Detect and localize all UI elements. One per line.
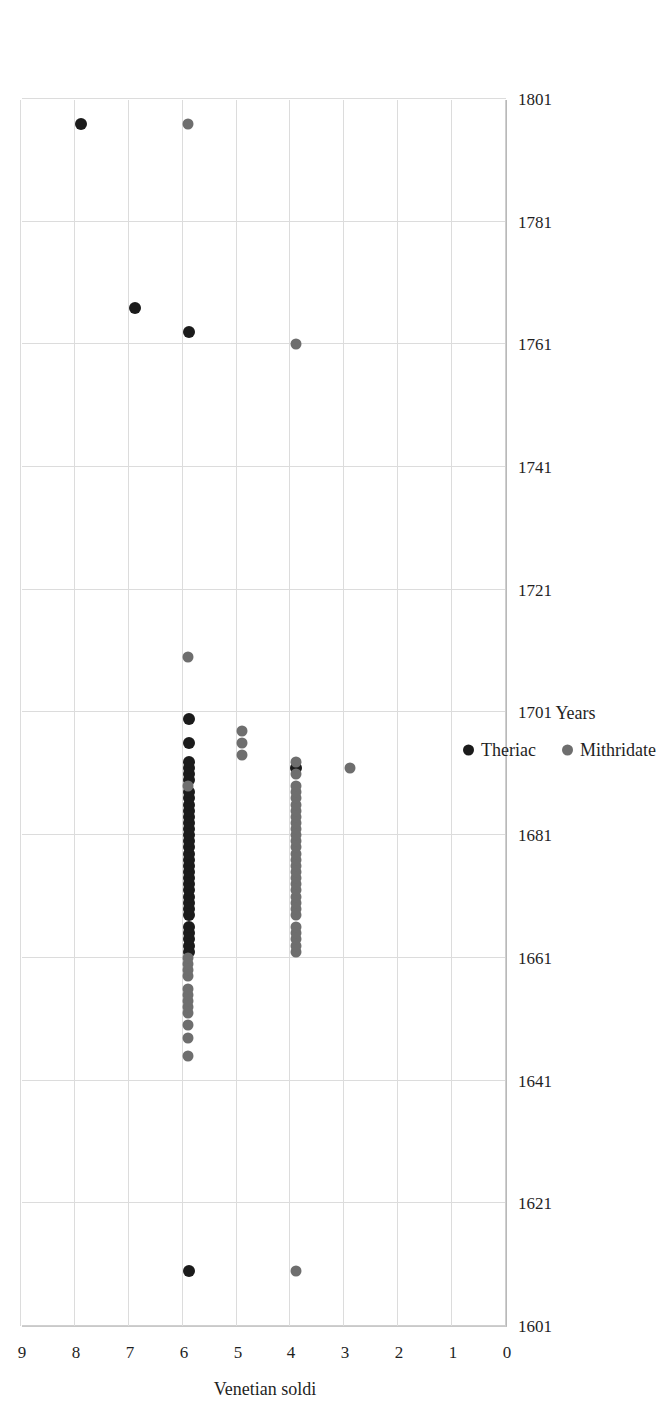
grid-line-soldi-0 [505,100,506,1326]
grid-line-year-1761 [22,343,506,344]
data-point-mithridate [183,1020,194,1031]
x-axis-title: Years [555,703,595,724]
x-tick-label-1701: 1701 [518,704,552,724]
legend-item-theriac: Theriac [463,740,536,761]
y-tick-label-2: 2 [395,1343,404,1363]
y-axis-title: Venetian soldi [213,1379,315,1400]
data-point-theriac [75,118,87,130]
grid-line-year-1721 [22,589,506,590]
y-tick-label-0: 0 [503,1343,512,1363]
data-point-mithridate [290,781,301,792]
grid-line-year-1801 [22,98,506,99]
data-point-mithridate [290,339,301,350]
x-tick-label-1681: 1681 [518,826,552,846]
y-tick-label-5: 5 [233,1343,242,1363]
data-point-theriac [183,921,195,933]
grid-line-year-1741 [22,466,506,467]
grid-line-soldi-7 [128,100,129,1326]
grid-line-year-1641 [22,1080,506,1081]
data-point-theriac [129,302,141,314]
grid-line-soldi-4 [289,100,290,1326]
grid-line-year-1701 [22,712,506,713]
grid-line-soldi-6 [182,100,183,1326]
grid-line-soldi-3 [343,100,344,1326]
data-point-mithridate [290,756,301,767]
y-tick-label-4: 4 [287,1343,296,1363]
x-tick-label-1741: 1741 [518,458,552,478]
legend-label: Theriac [481,740,536,761]
y-tick-label-9: 9 [18,1343,27,1363]
data-point-mithridate [183,781,194,792]
grid-line-year-1621 [22,1202,506,1203]
data-point-theriac [183,737,195,749]
data-point-theriac [183,713,195,725]
data-point-mithridate [183,1051,194,1062]
grid-line-year-1601 [22,1325,506,1326]
legend-item-mithridate: Mithridate [562,740,656,761]
x-tick-label-1801: 1801 [518,90,552,110]
grid-line-year-1681 [22,834,506,835]
y-tick-label-6: 6 [179,1343,188,1363]
data-point-mithridate [237,725,248,736]
y-tick-label-8: 8 [72,1343,81,1363]
grid-line-soldi-1 [451,100,452,1326]
data-point-mithridate [183,983,194,994]
grid-line-soldi-2 [397,100,398,1326]
x-tick-label-1601: 1601 [518,1317,552,1337]
data-point-mithridate [183,1032,194,1043]
data-point-mithridate [183,118,194,129]
data-point-mithridate [183,652,194,663]
x-tick-label-1641: 1641 [518,1072,552,1092]
x-tick-label-1781: 1781 [518,213,552,233]
grid-line-year-1661 [22,957,506,958]
grid-line-soldi-9 [20,100,21,1326]
x-tick-label-1721: 1721 [518,581,552,601]
x-tick-label-1661: 1661 [518,949,552,969]
grid-line-soldi-5 [236,100,237,1326]
filled-circle-icon [463,745,474,756]
chart-legend: TheriacMithridate [463,740,656,761]
data-point-theriac [183,756,195,768]
legend-label: Mithridate [580,740,656,761]
data-point-theriac [183,1265,195,1277]
data-point-theriac [183,326,195,338]
y-tick-label-1: 1 [449,1343,458,1363]
grid-line-year-1781 [22,221,506,222]
data-point-mithridate [344,762,355,773]
x-tick-label-1621: 1621 [518,1194,552,1214]
y-tick-label-7: 7 [126,1343,135,1363]
data-point-mithridate [290,922,301,933]
filled-circle-icon [562,745,573,756]
plot-area [22,100,507,1327]
data-point-mithridate [290,1265,301,1276]
data-point-mithridate [290,768,301,779]
data-point-mithridate [183,952,194,963]
data-point-mithridate [237,738,248,749]
x-tick-label-1761: 1761 [518,335,552,355]
y-tick-label-3: 3 [341,1343,350,1363]
grid-line-soldi-8 [74,100,75,1326]
data-point-mithridate [237,750,248,761]
